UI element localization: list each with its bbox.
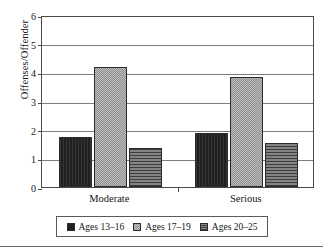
y-axis-tick-label: 4 — [31, 69, 36, 79]
gridline — [42, 103, 313, 104]
x-axis-category-label: Moderate — [89, 193, 129, 204]
y-axis-tick-label: 0 — [31, 184, 36, 194]
y-axis-tick — [38, 160, 42, 161]
legend-swatch-icon — [67, 223, 75, 231]
chart-legend: Ages 13–16Ages 17–19Ages 20–25 — [56, 216, 268, 237]
bar-moderate-series-2 — [129, 148, 162, 187]
legend-label: Ages 13–16 — [79, 222, 125, 232]
gridline — [42, 74, 313, 75]
y-axis-tick — [38, 17, 42, 18]
y-axis-tick-label: 6 — [31, 12, 36, 22]
legend-entry-1[interactable]: Ages 17–19 — [133, 222, 191, 232]
bar-serious-series-1 — [230, 77, 263, 187]
x-axis-group-tick — [178, 188, 179, 192]
y-axis-tick — [38, 74, 42, 75]
y-axis-tick — [38, 189, 42, 190]
y-axis-tick — [38, 131, 42, 132]
y-axis-tick-label: 5 — [31, 41, 36, 51]
y-axis-title: Offenses/Offender — [19, 0, 30, 140]
y-axis-tick-label: 2 — [31, 127, 36, 137]
bar-chart-figure: Offenses/Offender 0123456 Ages 13–16Ages… — [0, 0, 323, 252]
page-bottom-rule — [0, 246, 323, 247]
bar-moderate-series-0 — [59, 137, 92, 187]
y-axis-tick-label: 1 — [31, 155, 36, 165]
gridline — [42, 131, 313, 132]
legend-label: Ages 20–25 — [212, 222, 258, 232]
plot-area: 0123456 — [41, 16, 314, 188]
x-axis-category-label: Serious — [230, 193, 262, 204]
bar-serious-series-2 — [265, 143, 298, 187]
legend-swatch-icon — [200, 223, 208, 231]
legend-entry-2[interactable]: Ages 20–25 — [200, 222, 258, 232]
legend-label: Ages 17–19 — [145, 222, 191, 232]
gridline — [42, 45, 313, 46]
bar-moderate-series-1 — [94, 67, 127, 187]
y-axis-tick — [38, 103, 42, 104]
legend-entry-0[interactable]: Ages 13–16 — [67, 222, 125, 232]
bar-serious-series-0 — [195, 133, 228, 187]
legend-swatch-icon — [133, 223, 141, 231]
y-axis-tick — [38, 45, 42, 46]
y-axis-tick-label: 3 — [31, 98, 36, 108]
